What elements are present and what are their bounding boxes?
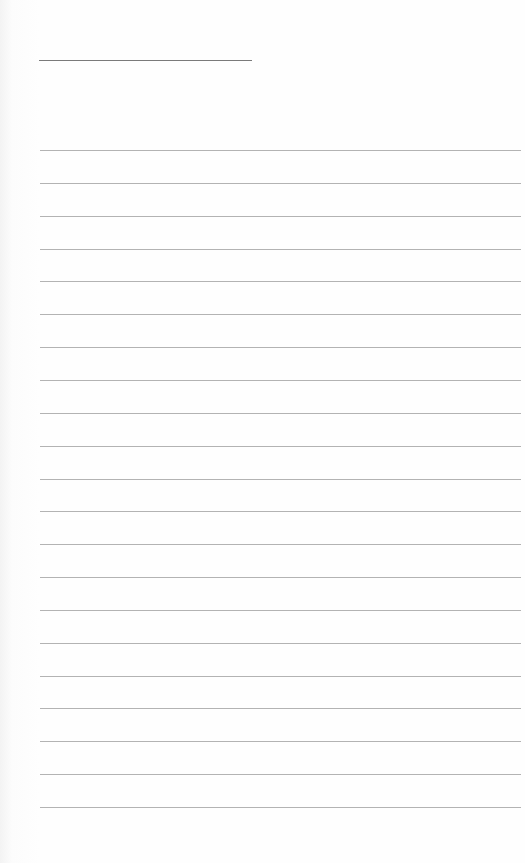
ruled-line <box>40 347 521 348</box>
ruled-line <box>40 249 521 250</box>
title-line <box>39 60 252 61</box>
ruled-line <box>40 314 521 315</box>
lined-paper <box>0 0 525 863</box>
ruled-line <box>40 774 521 775</box>
ruled-line <box>40 281 521 282</box>
ruled-line <box>40 380 521 381</box>
ruled-line <box>40 741 521 742</box>
ruled-line <box>40 577 521 578</box>
ruled-line <box>40 479 521 480</box>
ruled-line <box>40 807 521 808</box>
ruled-line <box>40 610 521 611</box>
ruled-line <box>40 544 521 545</box>
ruled-line <box>40 150 521 151</box>
ruled-line <box>40 708 521 709</box>
ruled-line <box>40 511 521 512</box>
ruled-line <box>40 643 521 644</box>
ruled-line <box>40 446 521 447</box>
ruled-line <box>40 676 521 677</box>
ruled-line <box>40 413 521 414</box>
ruled-line <box>40 183 521 184</box>
ruled-line <box>40 216 521 217</box>
